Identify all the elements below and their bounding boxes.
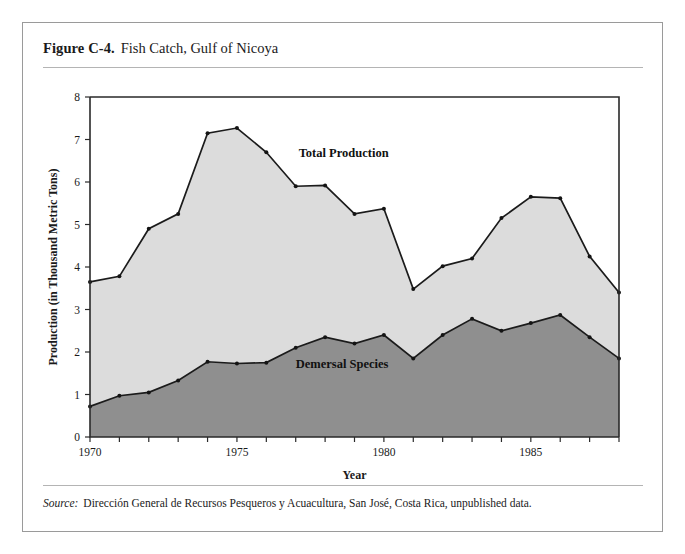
source-divider — [43, 485, 643, 486]
data-point-marker — [588, 335, 592, 339]
data-point-marker — [117, 274, 121, 278]
data-point-marker — [529, 195, 533, 199]
series-areas — [90, 128, 619, 437]
data-point-marker — [588, 254, 592, 258]
x-tick-label: 1985 — [519, 446, 542, 458]
y-tick-label: 5 — [74, 219, 80, 231]
data-point-marker — [382, 333, 386, 337]
data-point-marker — [323, 183, 327, 187]
demersal-species-label: Demersal Species — [296, 357, 389, 371]
x-tick-label: 1975 — [225, 446, 248, 458]
data-point-marker — [176, 378, 180, 382]
x-axis-title: Year — [343, 468, 368, 482]
data-point-marker — [294, 346, 298, 350]
data-point-marker — [470, 317, 474, 321]
y-tick-label: 7 — [74, 134, 80, 146]
figure-card: Figure C-4.Fish Catch, Gulf of Nicoya 01… — [22, 22, 663, 532]
y-tick-label: 6 — [74, 176, 80, 188]
data-point-marker — [147, 390, 151, 394]
source-note: Source:Dirección General de Recursos Pes… — [43, 493, 648, 515]
data-point-marker — [147, 227, 151, 231]
data-point-marker — [264, 361, 268, 365]
data-point-marker — [235, 126, 239, 130]
data-point-marker — [411, 287, 415, 291]
x-tick-label: 1970 — [79, 446, 102, 458]
data-point-marker — [558, 313, 562, 317]
y-tick-label: 4 — [74, 261, 80, 273]
total-production-label: Total Production — [299, 146, 389, 160]
data-point-marker — [206, 131, 210, 135]
y-axis-ticks: 012345678 — [74, 91, 90, 443]
data-point-marker — [235, 361, 239, 365]
data-point-marker — [264, 150, 268, 154]
data-point-marker — [294, 184, 298, 188]
data-point-marker — [441, 264, 445, 268]
y-tick-label: 3 — [74, 304, 80, 316]
x-tick-label: 1980 — [372, 446, 395, 458]
data-point-marker — [323, 335, 327, 339]
source-text: Dirección General de Recursos Pesqueros … — [83, 497, 531, 509]
fish-catch-area-chart: 012345678 1970197519801985 Production (i… — [23, 23, 664, 533]
data-point-marker — [558, 196, 562, 200]
source-label: Source: — [43, 497, 78, 509]
data-point-marker — [353, 212, 357, 216]
data-point-marker — [176, 212, 180, 216]
data-point-marker — [117, 394, 121, 398]
data-point-marker — [441, 333, 445, 337]
data-point-marker — [499, 329, 503, 333]
x-axis-ticks: 1970197519801985 — [79, 437, 620, 458]
data-point-marker — [529, 321, 533, 325]
y-axis-title: Production (in Thousand Metric Tons) — [46, 169, 60, 366]
chart-plot-area: 012345678 1970197519801985 Production (i… — [23, 23, 664, 533]
data-point-marker — [470, 257, 474, 261]
data-point-marker — [353, 342, 357, 346]
data-point-marker — [411, 356, 415, 360]
data-point-marker — [499, 216, 503, 220]
data-point-marker — [382, 207, 386, 211]
y-tick-label: 1 — [74, 389, 80, 401]
y-tick-label: 0 — [74, 431, 80, 443]
y-tick-label: 8 — [74, 91, 80, 103]
y-tick-label: 2 — [74, 346, 80, 358]
data-point-marker — [206, 360, 210, 364]
